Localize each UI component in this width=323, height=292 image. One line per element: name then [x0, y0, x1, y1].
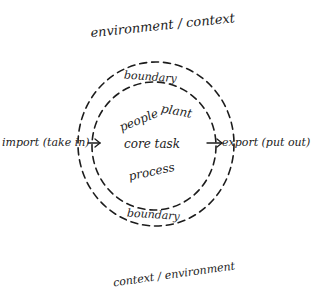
boundary-label-bottom: boundary [127, 206, 181, 223]
center-word-process: process [127, 160, 176, 183]
system-boundary-diagram: environment / context boundary boundary … [0, 0, 323, 292]
boundary-label-top: boundary [124, 69, 178, 86]
export-arrow-icon [207, 139, 222, 147]
center-word-core-task: core task [124, 137, 180, 151]
export-label: export (put out) [222, 136, 310, 149]
center-word-people: people [117, 106, 160, 134]
center-word-plant: plant [160, 102, 193, 121]
environment-context-label-top: environment / context [90, 10, 237, 40]
import-label: import (take in) [2, 136, 90, 149]
import-arrow-icon [88, 139, 100, 147]
environment-context-label-bottom: context / environment [112, 259, 236, 289]
